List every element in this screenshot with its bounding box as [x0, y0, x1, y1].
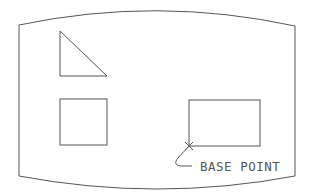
right-triangle [60, 31, 107, 76]
leader-line [176, 146, 192, 166]
rectangle [189, 100, 260, 146]
square [60, 99, 107, 145]
cad-drawing: BASE POINT [0, 0, 310, 196]
base-point-label: BASE POINT [200, 159, 280, 174]
